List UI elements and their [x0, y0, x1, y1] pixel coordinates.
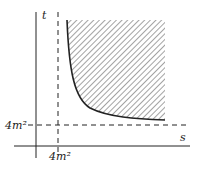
t-threshold-label: 4m²: [4, 119, 27, 132]
hatched-region: [60, 18, 170, 124]
t-axis-label: t: [42, 9, 47, 22]
s-axis-label: s: [180, 131, 186, 144]
s-threshold-label: 4m²: [48, 150, 71, 163]
mandelstam-diagram: t s 4m² 4m²: [0, 0, 199, 170]
